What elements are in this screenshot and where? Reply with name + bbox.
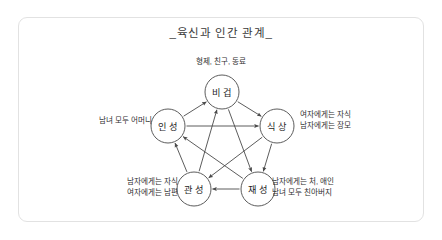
edge-siksang-to-gwanseong (209, 137, 263, 178)
annotation-right-line-1: 여자에게는 자식 (300, 110, 410, 121)
annotation-left: 남녀 모두 어머니 (56, 116, 152, 127)
edge-bigyeop-to-siksang (238, 102, 262, 117)
annotation-bottom-right-line-1: 남자에게는 처, 애인 (272, 177, 412, 188)
edge-bigyeop-to-jaeseong (228, 109, 251, 171)
diagram-canvas: _육신과 인간 관계_ 비 겁인 성식 상관 성재 성 형제, 친구, 동료 남… (0, 0, 442, 240)
annotation-bottom-left-line-1: 남자에게는 자식 (42, 177, 178, 188)
node-label-bigyeop: 비 겁 (212, 85, 232, 99)
node-label-siksang: 식 상 (267, 119, 287, 133)
node-label-gwanseong: 관 성 (184, 182, 204, 196)
node-label-jaeseong: 재 성 (248, 182, 268, 196)
annotation-bottom-right-line-2: 남녀 모두 친아버지 (272, 188, 412, 199)
annotation-right-line-2: 남자에게는 장모 (300, 121, 410, 132)
edge-inseong-to-bigyeop (184, 102, 207, 116)
annotation-top: 형제, 친구, 동료 (0, 57, 442, 68)
annotation-right: 여자에게는 자식 남자에게는 장모 (300, 110, 410, 131)
edge-gwanseong-to-inseong (175, 143, 187, 172)
node-label-inseong: 인 성 (158, 119, 178, 133)
edge-siksang-to-jaeseong (263, 144, 271, 172)
edge-gwanseong-to-bigyeop (199, 110, 217, 171)
annotation-bottom-left-line-2: 여자에게는 남편 (42, 188, 178, 199)
annotation-bottom-left: 남자에게는 자식 여자에게는 남편 (42, 177, 178, 198)
annotation-bottom-right: 남자에게는 처, 애인 남녀 모두 친아버지 (272, 177, 412, 198)
